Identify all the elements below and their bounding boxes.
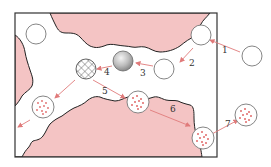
empty-circle-top-left xyxy=(26,24,46,44)
step-label-5: 5 xyxy=(102,86,108,96)
step-label-7: 7 xyxy=(225,119,231,129)
arrow-5b xyxy=(93,80,125,98)
step-label-1: 1 xyxy=(222,45,228,55)
arrow-5a xyxy=(55,80,75,98)
step-label-3: 3 xyxy=(140,68,146,78)
step-label-2: 2 xyxy=(189,58,195,68)
empty-circle-entry xyxy=(191,25,211,45)
hatched-sphere xyxy=(76,59,96,79)
arrow-left-exit xyxy=(18,120,30,127)
tissue-top xyxy=(50,13,210,52)
empty-circle-descending xyxy=(154,59,174,79)
diagram-stage: 1 2 3 4 5 6 7 xyxy=(0,0,271,167)
process-diagram: 1 2 3 4 5 6 7 xyxy=(0,0,271,167)
arrow-7 xyxy=(210,120,238,135)
arrow-3 xyxy=(136,63,153,66)
step-label-4: 4 xyxy=(104,67,110,77)
step-label-6: 6 xyxy=(170,104,176,114)
empty-circle-outside xyxy=(242,46,262,66)
gray-sphere xyxy=(113,51,133,71)
dotted-circle-left xyxy=(32,96,54,118)
dotted-circle-outside xyxy=(235,104,257,126)
dotted-circle-exit xyxy=(192,127,214,149)
dotted-circle-center xyxy=(127,91,149,113)
tissue-left xyxy=(15,35,33,106)
